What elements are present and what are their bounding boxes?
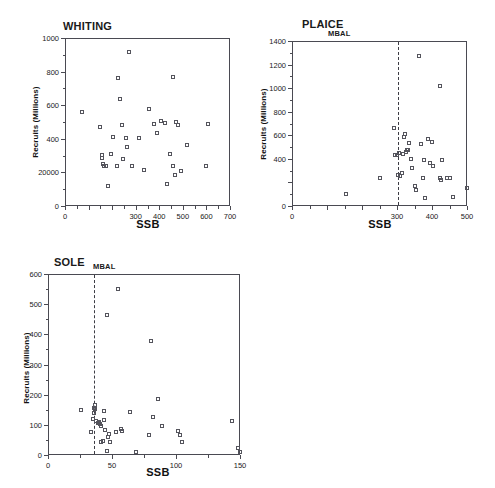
data-point-whiting	[204, 164, 208, 168]
x-tick-whiting	[136, 206, 137, 210]
x-tick-plaice	[467, 206, 468, 210]
x-ticklabel-sole: 100	[170, 461, 183, 470]
data-point-sole	[147, 433, 151, 437]
data-point-sole	[93, 407, 97, 411]
data-point-whiting	[98, 125, 102, 129]
y-tick-whiting	[61, 172, 65, 173]
data-point-whiting	[171, 75, 175, 79]
y-ticklabel-sole: 500	[0, 300, 42, 309]
y-minor-tick-sole	[46, 289, 49, 290]
data-point-whiting	[125, 145, 129, 149]
y-tick-whiting	[61, 105, 65, 106]
x-minor-tick-sole	[208, 455, 209, 458]
y-minor-tick-sole	[46, 349, 49, 350]
mbal-label-plaice: MBAL	[328, 29, 350, 38]
y-tick-whiting	[61, 139, 65, 140]
panel-sole: SOLE MBAL SSB Recruits (Millions) 050100…	[0, 248, 250, 488]
data-point-sole	[102, 409, 106, 413]
y-tick-whiting	[61, 206, 65, 207]
x-minor-tick-sole	[144, 455, 145, 458]
y-ticklabel-whiting: 1000	[0, 34, 59, 43]
data-point-whiting	[206, 122, 210, 126]
data-point-sole	[105, 313, 109, 317]
y-tick-sole	[44, 274, 48, 275]
y-tick-sole	[44, 395, 48, 396]
x-tick-sole	[240, 455, 241, 459]
panel-whiting: WHITING SSB Recruits (Millions) 03004005…	[0, 0, 250, 240]
x-tick-plaice	[327, 206, 328, 210]
data-point-plaice	[423, 196, 427, 200]
x-minor-tick-whiting	[148, 206, 149, 209]
y-ticklabel-sole: 300	[0, 360, 42, 369]
data-point-sole	[230, 419, 234, 423]
data-point-plaice	[422, 158, 426, 162]
data-point-plaice	[421, 176, 425, 180]
x-minor-tick-plaice	[380, 206, 381, 209]
data-point-whiting	[127, 50, 131, 54]
x-tick-whiting	[89, 206, 90, 210]
data-point-sole	[156, 397, 160, 401]
data-point-sole	[151, 415, 155, 419]
mbal-label-sole: MBAL	[93, 262, 115, 271]
data-point-sole	[149, 339, 153, 343]
y-minor-tick-sole	[46, 410, 49, 411]
scatter-plot-figure: WHITING SSB Recruits (Millions) 03004005…	[0, 0, 495, 488]
y-ticklabel-sole: 100	[0, 420, 42, 429]
data-point-sole	[108, 440, 112, 444]
y-tick-sole	[44, 334, 48, 335]
y-ticklabel-plaice: 0	[252, 202, 286, 211]
y-minor-tick-plaice	[290, 171, 293, 172]
x-axis-title-plaice: SSB	[368, 218, 392, 230]
data-point-whiting	[165, 182, 169, 186]
data-point-plaice	[431, 164, 435, 168]
x-minor-tick-plaice	[310, 206, 311, 209]
data-point-whiting	[171, 164, 175, 168]
x-tick-whiting	[206, 206, 207, 210]
y-minor-tick-plaice	[290, 124, 293, 125]
mbal-reference-line-plaice	[398, 42, 399, 205]
x-ticklabel-whiting: 400	[153, 212, 166, 221]
y-axis-title-plaice: Recruits (Millions)	[259, 88, 268, 159]
y-tick-whiting	[61, 38, 65, 39]
data-point-whiting	[185, 143, 189, 147]
y-ticklabel-plaice: 400	[252, 154, 286, 163]
data-point-plaice	[400, 171, 404, 175]
data-point-plaice	[465, 186, 469, 190]
data-point-whiting	[116, 76, 120, 80]
y-ticklabel-whiting: 400	[0, 134, 59, 143]
data-point-sole	[107, 432, 111, 436]
x-ticklabel-whiting: 700	[224, 212, 237, 221]
data-point-sole	[79, 408, 83, 412]
x-axis-title-sole: SSB	[146, 466, 170, 478]
data-point-plaice	[409, 157, 413, 161]
x-tick-whiting	[183, 206, 184, 210]
x-tick-whiting	[230, 206, 231, 210]
x-ticklabel-plaice: 300	[391, 212, 404, 221]
x-minor-tick-plaice	[415, 206, 416, 209]
y-ticklabel-plaice: 1000	[252, 84, 286, 93]
x-minor-tick-plaice	[345, 206, 346, 209]
x-ticklabel-sole: 50	[108, 461, 116, 470]
data-point-whiting	[179, 169, 183, 173]
x-tick-sole	[176, 455, 177, 459]
data-point-sole	[101, 439, 105, 443]
y-tick-sole	[44, 365, 48, 366]
y-tick-whiting	[61, 72, 65, 73]
y-minor-tick-whiting	[63, 122, 66, 123]
data-point-whiting	[111, 135, 115, 139]
y-ticklabel-sole: 600	[0, 270, 42, 279]
x-tick-sole	[48, 455, 49, 459]
y-minor-tick-plaice	[290, 147, 293, 148]
data-point-whiting	[121, 157, 125, 161]
x-tick-whiting	[112, 206, 113, 210]
x-ticklabel-plaice: 0	[290, 212, 294, 221]
data-point-whiting	[115, 164, 119, 168]
x-tick-whiting	[65, 206, 66, 210]
data-point-plaice	[438, 84, 442, 88]
data-point-plaice	[406, 148, 410, 152]
data-point-sole	[102, 418, 106, 422]
y-minor-tick-sole	[46, 380, 49, 381]
x-ticklabel-whiting: 500	[177, 212, 190, 221]
y-ticklabel-whiting: 600	[0, 101, 59, 110]
x-minor-tick-whiting	[218, 206, 219, 209]
